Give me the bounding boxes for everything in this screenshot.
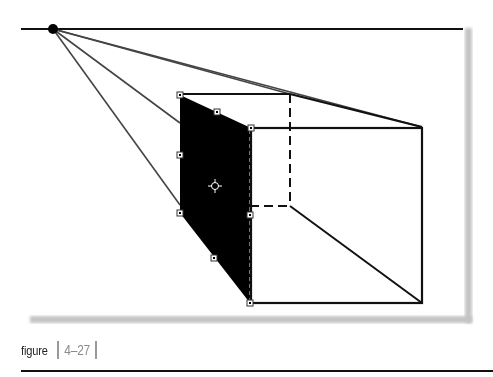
top-right-receding-edge — [290, 94, 422, 127]
selection-handle-dot — [213, 257, 215, 259]
selection-handle-dot — [179, 154, 181, 156]
caption-label: figure — [21, 343, 52, 358]
selection-handle-dot — [216, 111, 218, 113]
caption-bar-left — [57, 341, 59, 359]
figure-illustration — [0, 0, 493, 330]
selection-handle-dot — [249, 214, 251, 216]
figure-caption: figure 4–27 — [21, 340, 97, 360]
perspective-drawing — [0, 0, 493, 330]
perspective-line — [53, 29, 290, 94]
perspective-line — [53, 29, 180, 205]
vanishing-point[interactable] — [48, 24, 58, 34]
selection-handle-dot — [250, 127, 252, 129]
selection-handle-dot — [179, 212, 181, 214]
perspective-line — [53, 29, 180, 123]
caption-bar-right — [95, 341, 97, 359]
bottom-right-receding-edge — [290, 206, 422, 303]
shaded-side-face[interactable] — [180, 95, 251, 303]
front-face — [251, 128, 422, 303]
selection-handle-dot — [179, 94, 181, 96]
bottom-rule — [21, 370, 493, 372]
caption-number: 4–27 — [62, 342, 93, 358]
frame-shadow-right — [465, 28, 472, 323]
frame-shadow-bottom — [30, 316, 472, 323]
selection-handle-dot — [249, 302, 251, 304]
